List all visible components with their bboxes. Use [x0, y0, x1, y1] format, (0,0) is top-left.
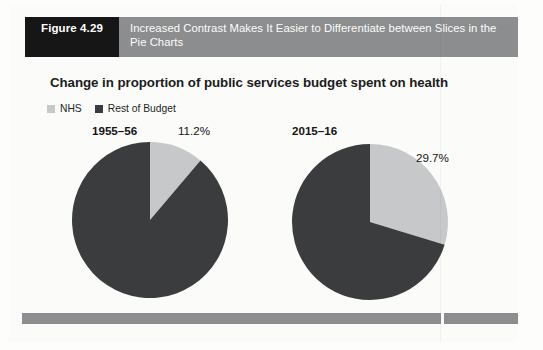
scan-seam — [440, 4, 441, 342]
chart-title: Change in proportion of public services … — [50, 75, 448, 90]
figure-page: Figure 4.29 Increased Contrast Makes It … — [0, 0, 543, 350]
figure-caption-band: Figure 4.29 Increased Contrast Makes It … — [25, 17, 518, 57]
pie-period-label-1: 1955–56 — [92, 124, 137, 137]
pie-chart-2015-16: 2015–16 29.7% — [240, 124, 490, 304]
pie-data-label-1: 11.2% — [178, 124, 210, 137]
figure-number-box: Figure 4.29 — [25, 17, 119, 57]
figure-footer-bar-gap — [441, 313, 444, 324]
pie-svg-2015-16 — [240, 124, 490, 304]
legend-entry-nhs: NHS — [47, 103, 82, 114]
pie-period-label-2: 2015–16 — [292, 124, 337, 137]
legend-swatch-icon-rest-of-budget — [95, 105, 103, 113]
pie-data-label-2: 29.7% — [416, 151, 449, 164]
pie-slice-rest-of-budget — [72, 142, 228, 298]
figure-number-label: Figure 4.29 — [41, 22, 103, 35]
legend-label-rest-of-budget: Rest of Budget — [108, 103, 176, 114]
chart-area: Change in proportion of public services … — [25, 62, 518, 310]
pie-svg-1955-56 — [35, 124, 265, 304]
figure-caption-text: Increased Contrast Makes It Easier to Di… — [130, 21, 510, 49]
legend-swatch-icon-nhs — [47, 105, 55, 113]
legend-label-nhs: NHS — [60, 103, 82, 114]
figure-caption-text-box: Increased Contrast Makes It Easier to Di… — [119, 17, 518, 57]
chart-legend: NHS Rest of Budget — [47, 103, 176, 114]
pie-chart-1955-56: 1955–56 11.2% — [35, 124, 265, 304]
legend-entry-rest-of-budget: Rest of Budget — [95, 103, 176, 114]
